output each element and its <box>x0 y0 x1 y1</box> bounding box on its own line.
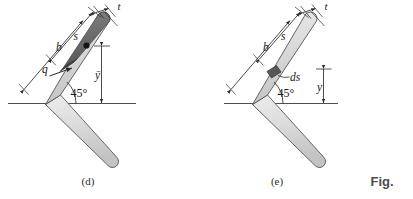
caption-d: (d) <box>82 175 95 188</box>
bent-bar-lower-arm-e <box>253 95 326 168</box>
shaded-region-d <box>64 12 111 68</box>
label-angle-d: 45° <box>71 86 88 100</box>
figure-word-label: Fig. <box>370 174 393 189</box>
label-angle-e: 45° <box>278 86 295 100</box>
label-q-d: q <box>42 63 48 76</box>
label-b-e: b <box>263 41 269 53</box>
label-s-d: s <box>74 30 79 42</box>
label-t-e: t <box>325 0 329 12</box>
centroid-dot-d <box>83 42 89 48</box>
figure-sheet: s b t q 45° ȳ (d) <box>0 0 413 199</box>
label-y-e: y <box>316 81 323 94</box>
label-ds-e: ds <box>290 71 301 83</box>
label-b-d: b <box>56 41 62 53</box>
label-ybar-d: ȳ <box>94 69 101 82</box>
figure-d-group: s b t q 45° ȳ (d) <box>8 0 136 188</box>
caption-e: (e) <box>271 175 284 188</box>
textbook-figure-svg: s b t q 45° ȳ (d) <box>0 0 413 199</box>
label-s-e: s <box>281 30 286 42</box>
label-t-d: t <box>118 0 122 12</box>
bent-bar-lower-arm-d <box>46 95 119 168</box>
figure-e-group: s b t ds 45° y (e) <box>224 0 338 188</box>
